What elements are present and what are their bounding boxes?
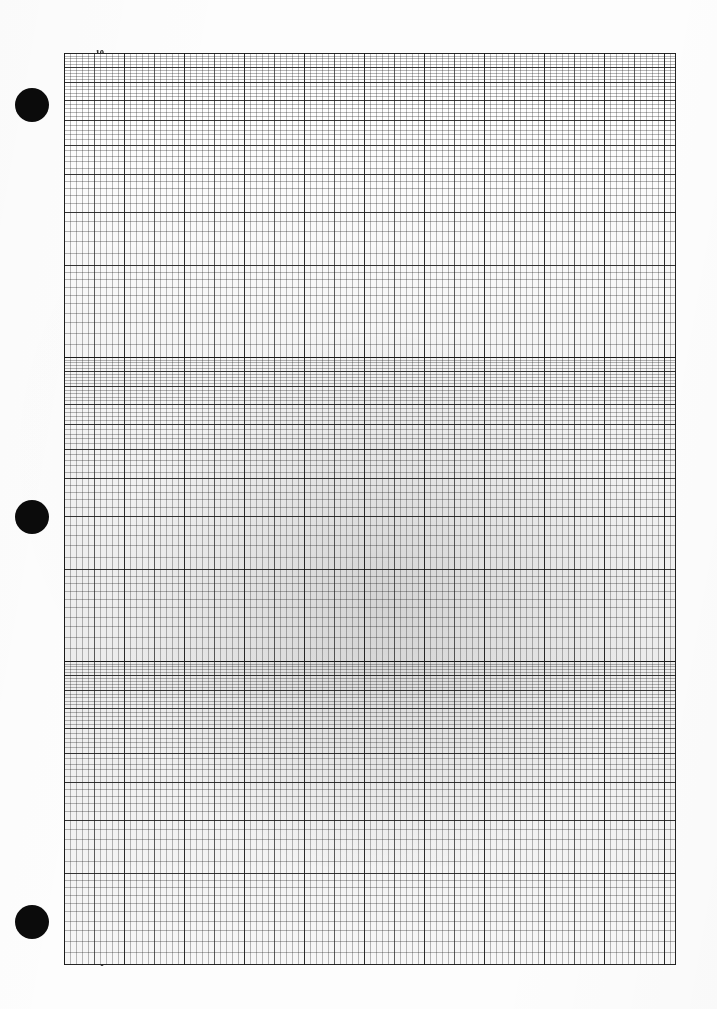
punch-hole-middle bbox=[15, 500, 49, 534]
graph-paper-sheet: 1098654321987654321987654321 bbox=[0, 0, 717, 1009]
semilog-grid bbox=[64, 53, 676, 965]
punch-hole-top bbox=[15, 88, 49, 122]
punch-hole-bottom bbox=[15, 905, 49, 939]
plot-grid-area bbox=[64, 53, 676, 965]
